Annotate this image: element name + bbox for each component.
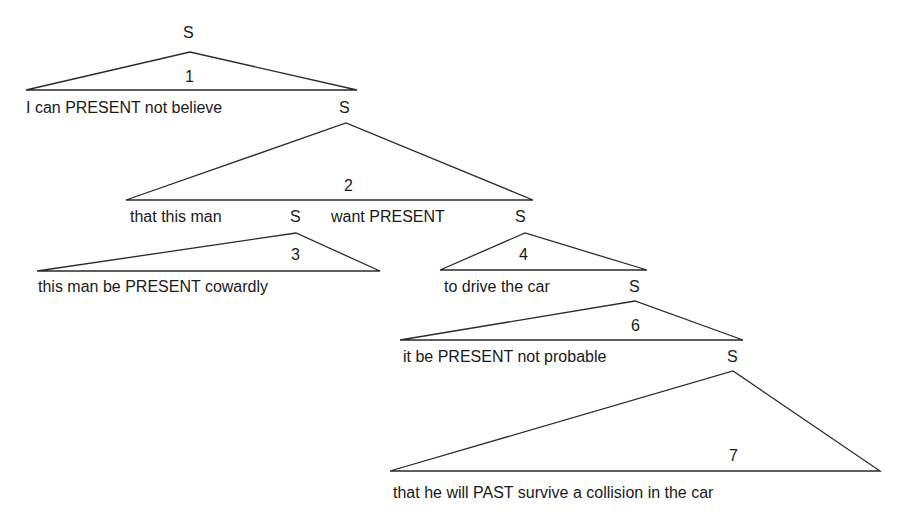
triangle-4 [440,233,647,270]
triangle-7 [390,371,880,471]
node-6-text: it be PRESENT not probable [403,348,606,366]
node-number-3: 3 [291,246,300,264]
node-2-s-b: S [515,208,526,226]
node-2-text-a: that this man [130,208,222,226]
node-3-text: this man be PRESENT cowardly [38,278,268,296]
node-number-4: 4 [519,246,528,264]
triangle-3 [37,233,380,271]
node-number-1: 1 [185,68,194,86]
root-s-label: S [183,24,194,42]
node-1-text: I can PRESENT not believe [26,99,222,117]
node-2-text-b: want PRESENT [331,208,445,226]
node-4-s: S [629,278,640,296]
node-7-text: that he will PAST survive a collision in… [393,484,713,502]
node-number-7: 7 [729,447,738,465]
node-4-text: to drive the car [444,278,550,296]
triangle-2 [126,123,533,200]
node-2-s-a: S [290,208,301,226]
triangle-6 [400,301,743,340]
node-6-s: S [727,348,738,366]
tree-lines [0,0,911,515]
node-number-2: 2 [344,177,353,195]
node-number-6: 6 [631,317,640,335]
node-1-s: S [339,99,350,117]
